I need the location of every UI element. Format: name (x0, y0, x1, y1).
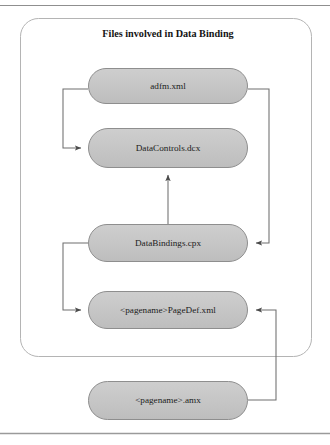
diagram-page: adfm.xml DataControls.dcx DataBindings.c… (0, 0, 330, 445)
node-pagedef-xml[interactable]: <pagename>PageDef.xml (89, 292, 248, 329)
edge-adfm-to-databindings (248, 89, 269, 243)
node-databindings-cpx-label: DataBindings.cpx (135, 238, 201, 248)
diagram-title: Files involved in Data Binding (102, 28, 233, 39)
node-adfm-xml-label: adfm.xml (150, 81, 186, 91)
node-adfm-xml[interactable]: adfm.xml (89, 69, 248, 104)
edge-databindings-to-pagedef (63, 243, 88, 310)
node-datacontrols-dcx[interactable]: DataControls.dcx (89, 129, 248, 168)
node-datacontrols-dcx-label: DataControls.dcx (136, 143, 201, 153)
node-pagename-amx[interactable]: <pagename>.amx (89, 382, 248, 420)
edge-adfm-to-datacontrols (63, 89, 88, 148)
node-databindings-cpx[interactable]: DataBindings.cpx (89, 225, 248, 262)
data-binding-diagram: adfm.xml DataControls.dcx DataBindings.c… (0, 0, 330, 445)
node-pagedef-xml-label: <pagename>PageDef.xml (120, 305, 216, 315)
edge-amx-to-pagedef (248, 310, 276, 400)
node-pagename-amx-label: <pagename>.amx (135, 395, 201, 405)
